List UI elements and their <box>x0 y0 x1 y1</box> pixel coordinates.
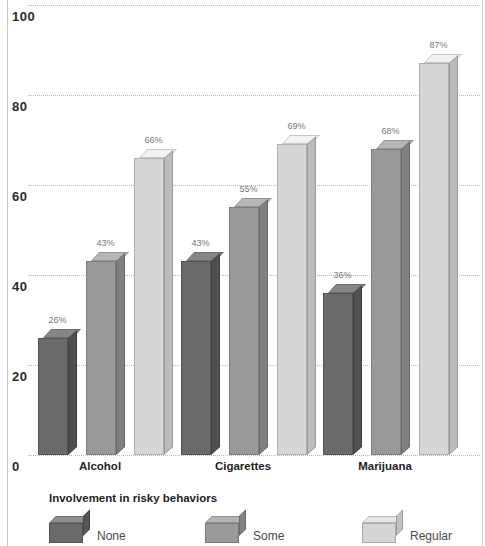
bar-marijuana-regular <box>419 54 449 455</box>
bar-value-label: 55% <box>223 184 275 194</box>
bar-front-face <box>371 149 401 455</box>
bar-value-label: 43% <box>175 238 227 248</box>
legend-swatch-regular <box>362 516 396 536</box>
risky-behaviors-bar-chart: 100 80 60 40 20 0 26%43%66%43%55%69%36%6… <box>0 0 485 546</box>
bar-cigarettes-some <box>229 198 259 455</box>
bar-front-face <box>86 261 116 455</box>
bar-value-label: 87% <box>413 40 465 50</box>
bar-front-face <box>181 261 211 455</box>
gridline-100 <box>28 5 480 6</box>
bar-marijuana-none <box>323 284 353 455</box>
legend-label-some: Some <box>253 529 284 543</box>
legend-label-regular: Regular <box>410 529 452 543</box>
category-label-cigarettes: Cigarettes <box>183 460 303 472</box>
y-tick-40: 40 <box>12 279 46 294</box>
legend-swatch-none <box>49 516 83 536</box>
bar-side-face <box>211 253 220 455</box>
legend-swatch-some <box>205 516 239 536</box>
bar-value-label: 69% <box>271 121 323 131</box>
bar-side-face <box>164 150 173 455</box>
bar-front-face <box>277 144 307 455</box>
bar-front-face <box>229 207 259 455</box>
bar-side-face <box>68 330 77 455</box>
gridline-80 <box>28 95 480 96</box>
y-tick-80: 80 <box>12 99 46 114</box>
gridline-0 <box>28 455 480 456</box>
category-label-alcohol: Alcohol <box>40 460 160 472</box>
bar-side-face <box>401 141 410 455</box>
bar-value-label: 36% <box>317 270 369 280</box>
bar-front-face <box>419 63 449 455</box>
y-tick-60: 60 <box>12 189 46 204</box>
bar-side-face <box>307 136 316 455</box>
bar-value-label: 26% <box>32 315 84 325</box>
bar-front-face <box>134 158 164 455</box>
bar-marijuana-some <box>371 140 401 455</box>
bar-front-face <box>38 338 68 455</box>
bar-side-face <box>449 55 458 455</box>
legend-title: Involvement in risky behaviors <box>49 492 217 504</box>
bar-value-label: 66% <box>128 135 180 145</box>
bar-value-label: 43% <box>80 238 132 248</box>
category-label-marijuana: Marijuana <box>325 460 445 472</box>
bar-value-label: 68% <box>365 126 417 136</box>
bar-cigarettes-none <box>181 252 211 455</box>
legend-label-none: None <box>97 529 126 543</box>
bar-alcohol-regular <box>134 149 164 455</box>
y-tick-100: 100 <box>12 9 46 24</box>
bar-side-face <box>116 253 125 455</box>
bar-cigarettes-regular <box>277 135 307 455</box>
bar-front-face <box>323 293 353 455</box>
bar-alcohol-none <box>38 329 68 455</box>
bar-alcohol-some <box>86 252 116 455</box>
bar-side-face <box>259 199 268 455</box>
bar-side-face <box>353 285 362 455</box>
